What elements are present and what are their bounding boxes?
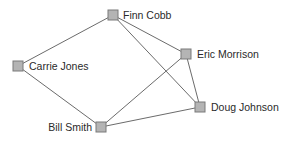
node-label-carrie-jones: Carrie Jones (29, 60, 89, 72)
node-label-finn-cobb: Finn Cobb (123, 9, 172, 21)
node-square-icon[interactable] (13, 61, 23, 71)
node-finn-cobb[interactable]: Finn Cobb (108, 9, 172, 21)
node-square-icon[interactable] (96, 122, 106, 132)
node-bill-smith[interactable]: Bill Smith (48, 121, 106, 133)
edge-bill-doug (101, 107, 200, 127)
node-doug-johnson[interactable]: Doug Johnson (195, 101, 279, 113)
node-square-icon[interactable] (108, 10, 118, 20)
edge-finn-doug (113, 15, 200, 107)
node-label-eric-morrison: Eric Morrison (197, 48, 259, 60)
edge-bill-eric (101, 54, 186, 127)
node-square-icon[interactable] (195, 102, 205, 112)
node-square-icon[interactable] (181, 49, 191, 59)
edge-finn-carrie (18, 15, 113, 66)
nodes-layer: Finn Cobb Carrie Jones Eric Morrison Dou… (13, 9, 279, 133)
edge-carrie-bill (18, 66, 101, 127)
node-eric-morrison[interactable]: Eric Morrison (181, 48, 259, 60)
node-label-doug-johnson: Doug Johnson (211, 101, 279, 113)
network-graph: Finn Cobb Carrie Jones Eric Morrison Dou… (0, 0, 286, 142)
node-label-bill-smith: Bill Smith (48, 121, 92, 133)
